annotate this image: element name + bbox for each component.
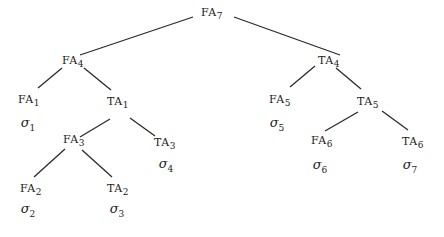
leaf-symbol: σ [270, 115, 279, 130]
node-label: FA [201, 6, 217, 19]
node-fa7: FA7 [201, 6, 223, 21]
node-label: TA [154, 136, 170, 149]
node-ta6: TA6 [402, 135, 424, 150]
tree-edges [0, 0, 444, 237]
node-subscript: 1 [34, 98, 40, 108]
node-subscript: 2 [36, 187, 42, 197]
leaf-symbol: σ [313, 157, 322, 172]
leaf-sigma-3: σ3 [110, 201, 125, 219]
node-label: TA [107, 95, 123, 108]
leaf-symbol: σ [21, 115, 30, 130]
node-subscript: 7 [217, 11, 223, 21]
leaf-symbol: σ [159, 156, 168, 171]
leaf-symbol: σ [403, 157, 412, 172]
node-subscript: 2 [123, 187, 129, 197]
node-ta3: TA3 [154, 136, 176, 151]
leaf-sigma-2: σ2 [21, 201, 36, 219]
leaf-subscript: 3 [119, 209, 125, 219]
node-ta4: TA4 [318, 54, 340, 69]
node-subscript: 1 [123, 100, 129, 110]
node-label: FA [311, 134, 327, 147]
node-subscript: 5 [285, 98, 291, 108]
node-label: FA [63, 133, 79, 146]
leaf-subscript: 1 [30, 123, 36, 133]
leaf-sigma-4: σ4 [159, 156, 174, 174]
node-fa5: FA5 [269, 93, 291, 108]
leaf-sigma-1: σ1 [21, 115, 36, 133]
node-label: TA [357, 95, 373, 108]
leaf-subscript: 7 [412, 165, 418, 175]
node-subscript: 6 [327, 139, 333, 149]
leaf-subscript: 6 [322, 165, 328, 175]
node-subscript: 3 [170, 141, 176, 151]
node-label: FA [20, 182, 36, 195]
node-fa6: FA6 [311, 134, 333, 149]
edge-fa4-ta1 [84, 68, 111, 90]
node-fa4: FA4 [62, 54, 84, 69]
node-fa2: FA2 [20, 182, 42, 197]
leaf-subscript: 2 [30, 209, 36, 219]
node-label: TA [402, 135, 418, 148]
node-ta5: TA5 [357, 95, 379, 110]
node-ta1: TA1 [107, 95, 129, 110]
node-label: FA [62, 54, 78, 67]
leaf-symbol: σ [21, 201, 30, 216]
edge-ta5-ta6 [382, 111, 408, 130]
node-ta2: TA2 [107, 182, 129, 197]
leaf-sigma-7: σ7 [403, 157, 418, 175]
leaf-subscript: 4 [168, 164, 174, 174]
node-subscript: 5 [373, 100, 379, 110]
edge-ta4-fa5 [290, 66, 315, 87]
node-subscript: 6 [418, 140, 424, 150]
edge-ta4-ta5 [336, 68, 361, 89]
node-label: TA [107, 182, 123, 195]
leaf-sigma-5: σ5 [270, 115, 285, 133]
node-label: TA [318, 54, 334, 67]
leaf-subscript: 5 [279, 123, 285, 133]
edge-ta5-fa6 [325, 112, 358, 131]
node-label: FA [269, 93, 285, 106]
node-label: FA [18, 93, 34, 106]
edge-fa3-ta2 [82, 150, 112, 177]
node-subscript: 4 [334, 59, 340, 69]
leaf-symbol: σ [110, 201, 119, 216]
node-fa1: FA1 [18, 93, 40, 108]
edge-fa3-fa2 [34, 149, 65, 177]
node-subscript: 3 [79, 138, 85, 148]
edge-ta1-ta3 [130, 118, 155, 136]
edge-fa7-fa4 [80, 17, 193, 55]
leaf-sigma-6: σ6 [313, 157, 328, 175]
node-fa3: FA3 [63, 133, 85, 148]
node-subscript: 4 [78, 59, 84, 69]
edge-fa7-ta4 [234, 17, 340, 55]
edge-fa4-fa1 [38, 68, 62, 88]
